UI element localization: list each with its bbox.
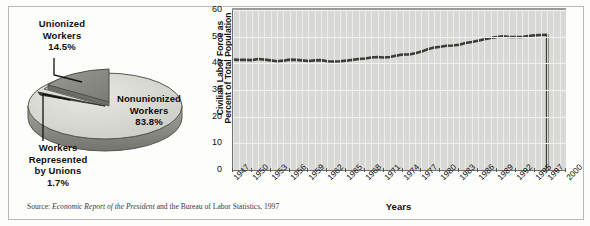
source-prefix: Source:	[27, 202, 52, 211]
pie-chart: Unionized Workers 14.5% Workers Represen…	[10, 10, 200, 196]
y-tick-label: 40	[196, 57, 222, 67]
grid-line-horizontal	[233, 90, 566, 91]
source-note: Source: Economic Report of the President…	[27, 202, 279, 211]
source-italic-title: Economic Report of the President	[52, 202, 155, 211]
x-tick-label: 2000	[564, 162, 584, 182]
y-tick-label: 0	[196, 164, 222, 174]
figure-container: Unionized Workers 14.5% Workers Represen…	[0, 0, 590, 226]
figure-border-bottom	[8, 219, 584, 220]
pie-label-nonunionized-value: 83.8%	[103, 116, 195, 128]
pie-label-represented-line3: by Unions	[10, 165, 106, 177]
x-tick-mark	[534, 168, 535, 172]
x-tick-mark	[402, 168, 403, 172]
y-tick-label: 20	[196, 111, 222, 121]
plot-area	[232, 10, 566, 171]
y-tick-label: 60	[196, 4, 222, 14]
y-axis-ticks: 0102030405060	[192, 8, 222, 176]
x-tick-mark	[270, 168, 271, 172]
x-tick-mark	[289, 168, 290, 172]
pie-label-unionized-line1: Unionized	[16, 18, 108, 30]
pie-label-unionized-value: 14.5%	[16, 41, 108, 53]
pie-label-unionized: Unionized Workers 14.5%	[16, 18, 108, 53]
x-axis-title: Years	[232, 201, 565, 212]
pie-label-represented-line2: Represented	[10, 154, 106, 166]
figure-border-left	[8, 6, 9, 220]
grid-line-horizontal	[233, 143, 566, 144]
y-tick-label: 30	[196, 84, 222, 94]
grid-line-horizontal	[233, 10, 566, 11]
line-chart: Civilian Labor Force as Percent of Total…	[196, 8, 584, 218]
y-tick-label: 10	[196, 137, 222, 147]
source-suffix: and the Bureau of Labor Statistics, 1997	[155, 202, 279, 211]
y-tick-label: 50	[196, 31, 222, 41]
grid-line-horizontal	[233, 117, 566, 118]
x-tick-mark	[515, 168, 516, 172]
pie-label-nonunionized-line1: Nonunionized	[103, 93, 195, 105]
figure-border-top	[8, 6, 584, 7]
pie-label-unionized-line2: Workers	[16, 30, 108, 42]
pie-label-represented-line1: Workers	[10, 142, 106, 154]
grid-line-horizontal	[233, 63, 566, 64]
pie-label-represented-value: 1.7%	[10, 177, 106, 189]
pie-label-nonunionized: Nonunionized Workers 83.8%	[103, 93, 195, 128]
pie-label-represented: Workers Represented by Unions 1.7%	[10, 142, 106, 188]
pie-label-nonunionized-line2: Workers	[103, 105, 195, 117]
grid-line-horizontal	[233, 37, 566, 38]
